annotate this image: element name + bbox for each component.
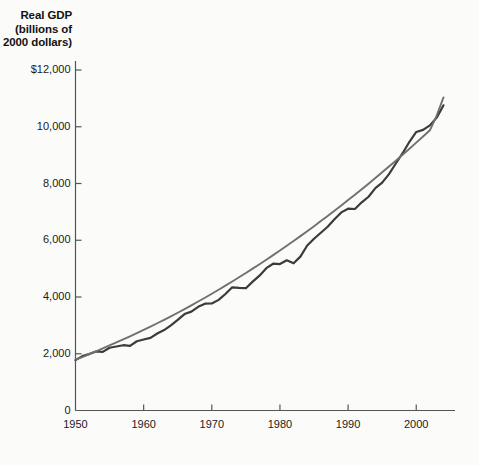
y-tick-label: 0 (64, 405, 70, 416)
x-tick-label: 1950 (51, 419, 101, 430)
y-tick-label: 10,000 (37, 121, 71, 132)
y-tick-label: 8,000 (43, 178, 71, 189)
x-tick-label: 1960 (119, 419, 169, 430)
actual-gdp-line (76, 105, 444, 360)
plot-area (0, 0, 479, 465)
y-tick-label: 4,000 (43, 291, 71, 302)
x-tick-label: 1970 (187, 419, 237, 430)
tick-marks (76, 70, 417, 411)
axes (76, 61, 456, 411)
x-tick-label: 1990 (323, 419, 373, 430)
trend-line (76, 97, 444, 359)
y-tick-label: $12,000 (31, 64, 71, 75)
y-tick-label: 6,000 (43, 234, 71, 245)
x-tick-label: 1980 (255, 419, 305, 430)
real-gdp-chart: Real GDP (billions of 2000 dollars) $12,… (0, 0, 479, 465)
x-tick-label: 2000 (391, 419, 441, 430)
data-series (76, 97, 444, 360)
y-tick-label: 2,000 (43, 348, 71, 359)
